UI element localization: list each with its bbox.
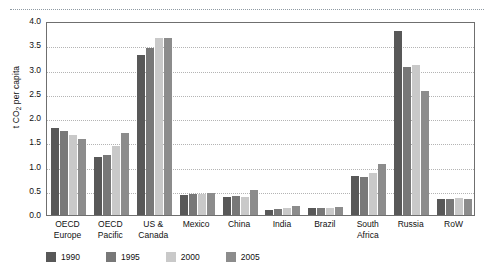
x-axis-tick-label-line: Canada — [132, 230, 175, 241]
bar — [121, 133, 129, 215]
bar — [335, 207, 343, 215]
bar-group — [390, 23, 433, 215]
bar — [265, 210, 273, 215]
x-axis-tick-label-line: South — [346, 219, 389, 230]
bar — [146, 48, 154, 215]
bar — [112, 146, 120, 215]
bar — [351, 176, 359, 215]
bar — [464, 199, 472, 215]
bar — [292, 206, 300, 215]
x-axis-tick-label-line: US & — [132, 219, 175, 230]
legend-label: 2005 — [241, 252, 260, 262]
bar — [180, 195, 188, 215]
bar-group — [90, 23, 133, 215]
y-axis-tick-label: 2.0 — [1, 114, 41, 123]
bar — [51, 128, 59, 215]
y-axis-tick-label: 0.0 — [1, 211, 41, 220]
legend-item: 1995 — [106, 252, 140, 262]
bar — [378, 164, 386, 215]
bar — [283, 208, 291, 215]
legend-swatch-icon — [226, 252, 236, 262]
y-axis-tick-label: 3.0 — [1, 66, 41, 75]
bar — [164, 38, 172, 215]
y-axis-tick-label: 1.5 — [1, 138, 41, 147]
bar — [369, 173, 377, 215]
x-axis-tick-label-line: Africa — [346, 230, 389, 241]
x-axis-tick-label: SouthAfrica — [346, 219, 389, 240]
x-axis-tick-label: RoW — [432, 219, 475, 230]
x-axis-tick-label: India — [261, 219, 304, 230]
x-axis-tick-label: China — [218, 219, 261, 230]
legend-label: 1995 — [121, 252, 140, 262]
bar-group — [304, 23, 347, 215]
top-dotted-rule — [10, 9, 484, 10]
legend-swatch-icon — [106, 252, 116, 262]
bar — [207, 193, 215, 215]
bar — [437, 199, 445, 215]
x-axis-tick-label-line: OECD — [89, 219, 132, 230]
legend-swatch-icon — [46, 252, 56, 262]
bar — [308, 208, 316, 215]
bar-group — [219, 23, 262, 215]
x-axis-tick-label-line: India — [261, 219, 304, 230]
bar — [60, 131, 68, 215]
x-axis-tick-label: Russia — [389, 219, 432, 230]
x-axis-tick-label: Brazil — [303, 219, 346, 230]
bar — [326, 208, 334, 215]
legend-label: 2000 — [181, 252, 200, 262]
bar — [155, 38, 163, 216]
bar-group — [347, 23, 390, 215]
bar-group — [433, 23, 476, 215]
y-axis-tick-label: 2.5 — [1, 90, 41, 99]
plot-area — [46, 22, 475, 216]
y-axis-tick-label: 1.0 — [1, 163, 41, 172]
legend-item: 2005 — [226, 252, 260, 262]
bar — [360, 177, 368, 215]
bar — [232, 196, 240, 215]
bar — [189, 194, 197, 215]
bar — [241, 197, 249, 215]
bar-group — [176, 23, 219, 215]
bar — [78, 139, 86, 215]
y-axis-title-subscript: 2 — [15, 107, 22, 111]
bar — [394, 31, 402, 215]
chart-legend: 1990199520002005 — [46, 252, 286, 262]
x-axis-tick-label: OECDEurope — [46, 219, 89, 240]
legend-swatch-icon — [166, 252, 176, 262]
bar — [137, 55, 145, 215]
x-axis-tick-label-line: Mexico — [175, 219, 218, 230]
bar — [198, 194, 206, 215]
bars-layer — [47, 23, 474, 215]
x-axis-tick-labels: OECDEuropeOECDPacificUS &CanadaMexicoChi… — [46, 219, 475, 247]
bar — [103, 155, 111, 215]
x-axis-tick-label: US &Canada — [132, 219, 175, 240]
bar — [250, 190, 258, 215]
legend-item: 2000 — [166, 252, 200, 262]
bar-group — [133, 23, 176, 215]
bar — [446, 199, 454, 215]
bar — [317, 208, 325, 215]
bar — [94, 157, 102, 215]
bar-group — [47, 23, 90, 215]
bar — [403, 67, 411, 215]
chart-figure: t CO2 per capita 0.00.51.01.52.02.53.03.… — [0, 0, 492, 274]
bar — [455, 198, 463, 215]
x-axis-tick-label: OECDPacific — [89, 219, 132, 240]
bar-group — [262, 23, 305, 215]
x-axis-tick-label-line: Russia — [389, 219, 432, 230]
bar — [421, 91, 429, 215]
bar — [69, 135, 77, 215]
x-axis-tick-label-line: OECD — [46, 219, 89, 230]
bar — [412, 65, 420, 215]
y-axis-tick-label: 0.5 — [1, 187, 41, 196]
bar — [274, 209, 282, 215]
x-axis-tick-label-line: Pacific — [89, 230, 132, 241]
x-axis-tick-label-line: RoW — [432, 219, 475, 230]
x-axis-tick-label-line: Brazil — [303, 219, 346, 230]
x-axis-tick-label-line: Europe — [46, 230, 89, 241]
legend-label: 1990 — [61, 252, 80, 262]
x-axis-tick-label: Mexico — [175, 219, 218, 230]
y-axis-tick-label: 4.0 — [1, 17, 41, 26]
y-axis-tick-label: 3.5 — [1, 41, 41, 50]
legend-item: 1990 — [46, 252, 80, 262]
